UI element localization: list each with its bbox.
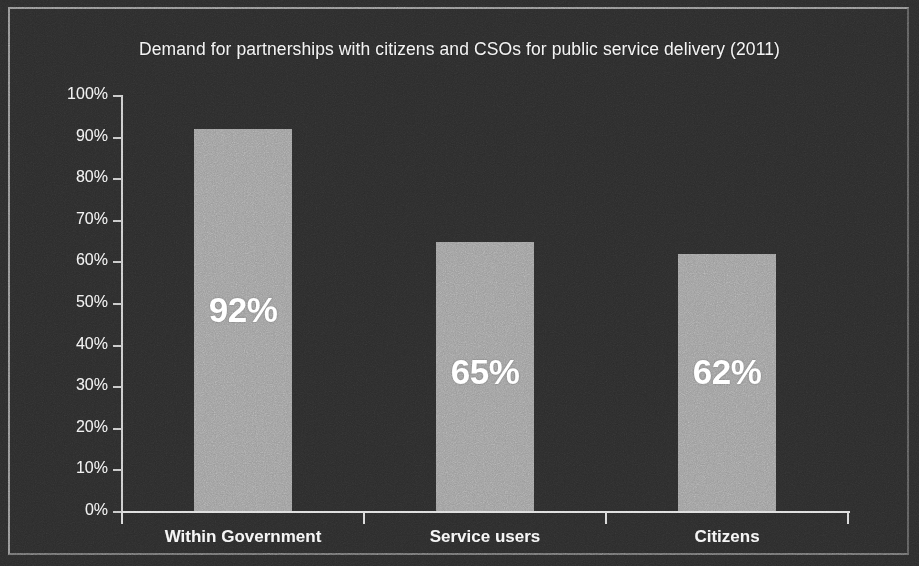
y-axis-tick (113, 261, 122, 263)
y-axis-label: 50% (38, 293, 108, 311)
category-label: Within Government (122, 527, 364, 547)
y-axis-label: 70% (38, 210, 108, 228)
y-axis-tick (113, 137, 122, 139)
category-label: Citizens (606, 527, 848, 547)
category-label: Service users (364, 527, 606, 547)
bar-value-label: 62% (658, 352, 796, 392)
plot-area: 92%65%62% (122, 96, 848, 512)
y-axis-tick (113, 303, 122, 305)
y-axis-label: 60% (38, 251, 108, 269)
y-axis-label: 100% (38, 85, 108, 103)
x-axis-tick (605, 512, 607, 524)
bar-value-label: 65% (416, 352, 554, 392)
y-axis-tick (113, 386, 122, 388)
bar-value-label: 92% (174, 290, 312, 330)
y-axis-tick-labels: 100%90%80%70%60%50%40%30%20%10%0% (34, 0, 108, 566)
y-axis-label: 10% (38, 459, 108, 477)
x-axis-line (121, 511, 850, 513)
y-axis-tick (113, 178, 122, 180)
y-axis-label: 40% (38, 335, 108, 353)
x-axis-tick (847, 512, 849, 524)
chart-title: Demand for partnerships with citizens an… (0, 39, 919, 60)
y-axis-tick (113, 345, 122, 347)
x-axis-tick (121, 512, 123, 524)
y-axis-tick (113, 95, 122, 97)
y-axis-label: 20% (38, 418, 108, 436)
y-axis-label: 0% (38, 501, 108, 519)
y-axis-tick (113, 428, 122, 430)
chart-figure: Demand for partnerships with citizens an… (0, 0, 919, 566)
y-axis-tick (113, 469, 122, 471)
y-axis-label: 90% (38, 127, 108, 145)
y-axis-label: 30% (38, 376, 108, 394)
y-axis-label: 80% (38, 168, 108, 186)
x-axis-tick (363, 512, 365, 524)
y-axis-tick (113, 220, 122, 222)
